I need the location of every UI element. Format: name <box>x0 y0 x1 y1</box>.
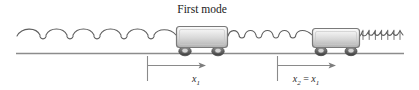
diagram-title: First mode <box>177 3 227 15</box>
cart-1-wheel-left-hub <box>182 48 188 53</box>
x2-label-subscript2: 1 <box>316 79 320 87</box>
cart-2-wheel-left-hub <box>318 48 324 53</box>
cart-1-wheel-right-hub <box>215 48 221 53</box>
x1-label-subscript: 1 <box>196 79 200 87</box>
x2-label-equals: = <box>301 73 312 84</box>
cart-2-wheel-right-hub <box>348 48 354 53</box>
diagram-canvas: First mode x1 x2 = x1 <box>0 0 419 90</box>
physics-diagram-first-mode: First mode x1 x2 = x1 <box>0 0 419 90</box>
